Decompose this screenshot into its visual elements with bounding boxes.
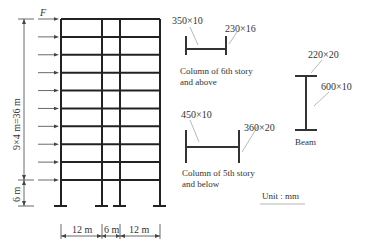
load-label: F [39,7,47,18]
bay-label-1: 12 m [72,224,93,235]
dim-arrow [22,19,26,24]
load-arrowhead [54,89,59,93]
bay-label-2: 6 m [104,224,120,235]
leader-line [190,27,198,45]
leader-line [190,120,199,142]
dim-arrow [22,175,26,180]
beam-caption: Beam [295,137,316,147]
lower-col-caption-2: and below [182,179,220,189]
leader-line [314,92,329,106]
dim-arrow [61,234,66,238]
floor-beams [61,19,160,180]
load-arrows [38,17,59,182]
unit-label: Unit : mm [262,191,299,201]
load-arrowhead [54,71,59,75]
load-arrowhead [54,178,59,182]
story-height-label: 9×4 m=36 m [11,98,22,150]
beam-flange-label: 220×20 [308,49,339,60]
beam-web-label: 600×10 [321,81,352,92]
upper-col-caption-1: Column of 6th story [180,66,253,76]
load-arrowhead [54,142,59,146]
leader-line [311,60,322,73]
upper-col-caption-2: and above [180,77,217,87]
load-arrowhead [54,17,59,21]
lower-col-caption-1: Column of 5th story [182,168,255,178]
lower-column-section: 450×10 360×20 Column of 5th story and be… [181,109,275,189]
load-arrowhead [54,160,59,164]
dim-arrow [22,180,26,185]
bay-dimension: 12 m 6 m 12 m [61,224,160,239]
lower-col-flange-label: 360×20 [244,122,275,133]
load-arrowhead [54,125,59,129]
upper-col-flange-label: 230×16 [225,23,256,34]
dim-arrow [97,234,102,238]
dim-arrow [22,201,26,206]
load-arrowhead [54,35,59,39]
load-arrowhead [54,53,59,57]
frame-diagram: F 9×4 m=36 m 6 m 12 m 6 m 12 m [0,0,366,251]
height-dimension: 9×4 m=36 m 6 m [11,19,34,206]
dim-arrow [120,234,125,238]
upper-column-section: 350×10 230×16 Column of 6th story and ab… [172,15,256,87]
lower-col-web-label: 450×10 [181,109,212,120]
upper-col-web-label: 350×10 [172,15,203,26]
dim-arrow [155,234,160,238]
base-story-label: 6 m [11,187,22,203]
beam-section: 220×20 600×10 Beam [295,49,352,147]
bay-label-3: 12 m [129,224,150,235]
load-arrowhead [54,107,59,111]
frame-columns [61,19,160,206]
